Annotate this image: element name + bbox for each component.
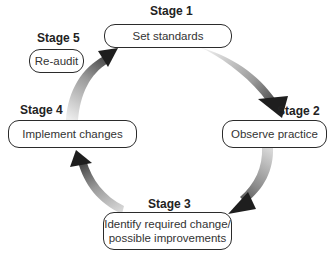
stage-5-text: Re-audit bbox=[35, 54, 78, 68]
stage-2-text: Observe practice bbox=[231, 127, 318, 141]
stage-3-text-line-2: possible improvements bbox=[109, 231, 227, 245]
stage-3-text-line-1: Identify required change/ bbox=[104, 217, 231, 231]
stage-4-text: Implement changes bbox=[22, 127, 122, 141]
stage-5-box: Re-audit bbox=[29, 49, 84, 73]
arrow-stage3-to-stage4 bbox=[70, 150, 124, 214]
stage-1-label: Stage 1 bbox=[150, 4, 193, 18]
stage-4-label: Stage 4 bbox=[20, 103, 63, 117]
stage-3-box: Identify required change/ possible impro… bbox=[103, 212, 232, 250]
arrow-stage2-to-stage3 bbox=[228, 147, 273, 214]
stage-4-box: Implement changes bbox=[8, 120, 137, 148]
stage-1-box: Set standards bbox=[104, 24, 232, 48]
stage-2-label: Stage 2 bbox=[277, 104, 320, 118]
stage-2-box: Observe practice bbox=[222, 120, 327, 148]
stage-1-text: Set standards bbox=[133, 29, 204, 43]
arrow-stage1-to-stage2 bbox=[196, 46, 288, 118]
stage-3-label: Stage 3 bbox=[148, 197, 191, 211]
stage-5-label: Stage 5 bbox=[37, 31, 80, 45]
